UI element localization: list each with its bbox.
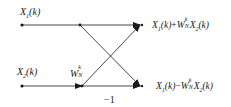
negation-label: −1 [104, 95, 115, 105]
input-node-2 [20, 84, 23, 87]
out2-w-sub: N [189, 84, 193, 90]
out1-w-sub: N [185, 23, 189, 29]
out1-a-arg: (k) [161, 20, 172, 30]
input-1-arg: (k) [29, 6, 40, 17]
twiddle-sup: k [78, 64, 81, 70]
output-label-sum: X1(k)+WkNX2(k) [152, 19, 209, 32]
twiddle-factor-label: WkN [70, 67, 84, 79]
out2-w-var: W [181, 81, 189, 91]
output-node-2 [141, 85, 143, 87]
output-label-diff: X1(k)−WkNX2(k) [156, 80, 213, 93]
out1-w-sup: k [185, 16, 188, 22]
twiddle-sub: N [78, 72, 82, 78]
split-node-1 [79, 24, 82, 27]
output-node-1 [141, 24, 143, 26]
out2-b-arg: (k) [202, 81, 213, 91]
input-2-arg: (k) [26, 66, 37, 77]
out1-w-var: W [177, 20, 185, 30]
out2-a-arg: (k) [165, 81, 176, 91]
input-label-2: X2(k) [17, 67, 37, 79]
out1-b-arg: (k) [198, 20, 209, 30]
input-label-1: X1(k) [20, 7, 40, 19]
out2-w-sup: k [189, 77, 192, 83]
input-node-1 [20, 23, 23, 26]
split-node-2 [81, 85, 84, 88]
